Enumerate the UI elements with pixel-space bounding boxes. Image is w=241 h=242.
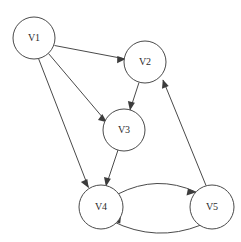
edge-v5-v4-line	[112, 221, 201, 233]
graph-diagram: V1 V2 V3 V4 V5	[0, 0, 241, 242]
edge-v1-v3	[49, 54, 107, 123]
node-v5-label: V5	[206, 201, 218, 212]
node-v3-label: V3	[118, 124, 130, 135]
edge-v5-v2-arrowhead	[162, 80, 169, 89]
edge-v5-v2	[162, 80, 206, 186]
node-v1-label: V1	[28, 32, 40, 43]
graph-canvas: V1 V2 V3 V4 V5	[0, 0, 241, 242]
node-v3[interactable]: V3	[103, 109, 145, 151]
edge-v5-v2-line	[163, 80, 206, 186]
edge-v1-v4	[39, 59, 89, 188]
node-v1[interactable]: V1	[13, 17, 55, 59]
node-v4-label: V4	[95, 201, 107, 212]
edge-v1-v2-line	[55, 46, 126, 60]
edge-v1-v3-line	[49, 54, 107, 123]
edge-v2-v3	[128, 83, 139, 111]
node-v2-label: V2	[139, 56, 151, 67]
edge-v1-v2	[55, 46, 126, 64]
edge-v4-v5	[118, 183, 196, 195]
node-v5[interactable]: V5	[190, 185, 234, 229]
edge-v5-v4	[112, 216, 201, 233]
edge-v1-v4-line	[39, 59, 89, 188]
edge-v4-v5-line	[118, 183, 196, 194]
node-v2[interactable]: V2	[124, 41, 166, 83]
edge-v3-v4	[104, 150, 118, 186]
edge-v1-v4-arrowhead	[81, 179, 89, 188]
edge-v2-v3-arrowhead	[128, 101, 135, 110]
node-v4[interactable]: V4	[79, 185, 123, 229]
